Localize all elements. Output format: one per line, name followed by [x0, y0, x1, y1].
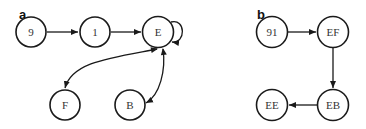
diagram-canvas: a 9 1 E F B b: [0, 0, 366, 129]
node-label: 9: [28, 26, 34, 38]
node-label: EB: [326, 99, 340, 111]
node-91: 91: [257, 17, 288, 48]
node-EE: EE: [257, 90, 288, 121]
node-label: 91: [267, 26, 278, 38]
node-B: B: [115, 90, 145, 120]
panel-a: a 9 1 E F B: [16, 7, 182, 120]
node-label: E: [155, 26, 162, 38]
node-1: 1: [80, 17, 110, 47]
node-label: 1: [92, 26, 98, 38]
node-F: F: [50, 90, 80, 120]
edge-E-B-bidirectional: [146, 49, 164, 103]
node-E: E: [143, 17, 174, 48]
node-label: EF: [327, 26, 340, 38]
panel-b: b 91 EF EB EE: [257, 7, 349, 121]
node-EF: EF: [318, 17, 349, 48]
node-EB: EB: [318, 90, 349, 121]
node-label: B: [126, 99, 133, 111]
node-label: F: [62, 99, 68, 111]
node-label: EE: [265, 99, 279, 111]
node-9: 9: [16, 17, 46, 47]
edge-E-F-bidirectional: [65, 49, 157, 88]
